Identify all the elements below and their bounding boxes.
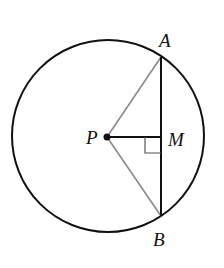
label-A: A	[157, 30, 171, 51]
diagram-svg: A B P M	[0, 0, 224, 268]
label-B: B	[153, 229, 165, 250]
label-M: M	[167, 129, 185, 150]
geometry-diagram: A B P M	[0, 0, 224, 268]
segment-PB	[107, 137, 161, 216]
center-point-P	[104, 134, 111, 141]
right-angle-marker	[145, 137, 161, 153]
segment-PA	[107, 57, 161, 137]
label-P: P	[85, 127, 98, 148]
